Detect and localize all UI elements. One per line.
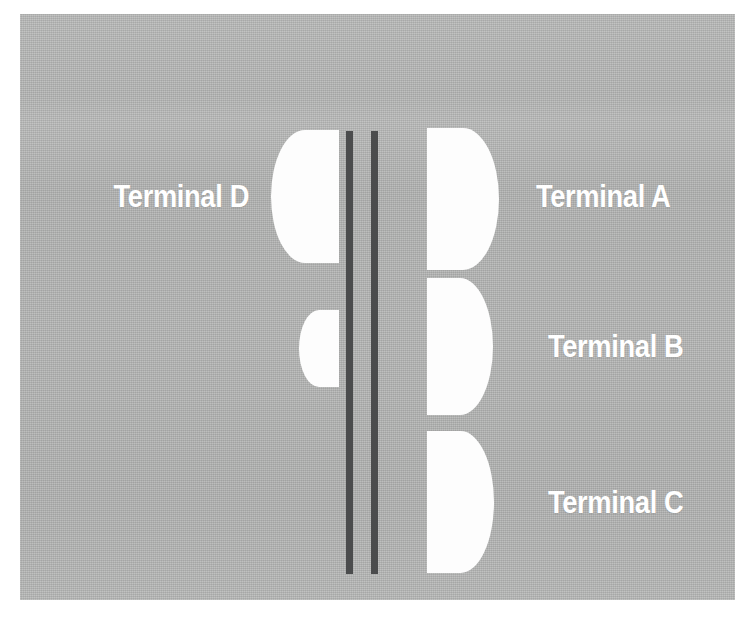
runway-bar-east: [371, 131, 378, 574]
concourse-d-shape: [271, 130, 339, 263]
concourse-d-small-shape: [299, 310, 339, 387]
label-terminal-a: Terminal A: [536, 181, 708, 212]
label-terminal-d: Terminal D: [77, 181, 249, 212]
label-terminal-c: Terminal C: [548, 487, 720, 518]
diagram-root: Terminal DTerminal ATerminal BTerminal C: [0, 0, 751, 626]
label-terminal-b: Terminal B: [548, 331, 720, 362]
concourse-c-shape: [427, 431, 494, 573]
runway-bar-west: [346, 131, 353, 574]
concourse-a-shape: [427, 128, 499, 270]
diagram-canvas: Terminal DTerminal ATerminal BTerminal C: [20, 14, 735, 600]
concourse-b-shape: [427, 278, 493, 415]
